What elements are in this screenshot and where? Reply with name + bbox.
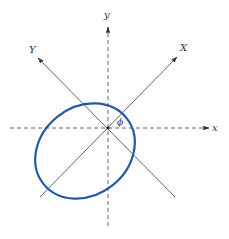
y-axis-label: y xyxy=(103,9,110,20)
rotated-X-axis-label: X xyxy=(179,42,188,53)
rotated-Y-axis-label: Y xyxy=(29,44,37,55)
x-axis-label: x xyxy=(212,122,218,133)
origin-point xyxy=(106,126,109,129)
angle-phi-label: ϕ xyxy=(117,117,123,127)
rotated-axes-diagram: y x X Y ϕ xyxy=(0,0,229,239)
